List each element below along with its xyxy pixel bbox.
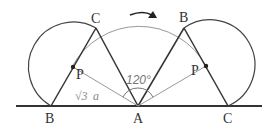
right-side-AB: [138, 28, 184, 106]
left-point-P: [71, 65, 75, 69]
label-length-sqrt: √3: [75, 89, 88, 103]
right-point-P: [204, 64, 208, 68]
label-left-P: P: [76, 67, 84, 82]
label-angle: 120°: [126, 73, 151, 87]
left-side-CA: [96, 28, 138, 106]
label-right-P: P: [191, 63, 199, 78]
label-length-var: a: [93, 89, 99, 103]
label-left-B: B: [45, 111, 54, 126]
label-right-C: C: [223, 111, 232, 126]
label-left-C: C: [91, 11, 100, 26]
diagram-canvas: C B P A B C P 120° √3 a: [0, 0, 276, 130]
label-right-B: B: [179, 10, 188, 25]
rotation-arrow-icon: [130, 13, 152, 16]
label-A: A: [133, 111, 144, 126]
